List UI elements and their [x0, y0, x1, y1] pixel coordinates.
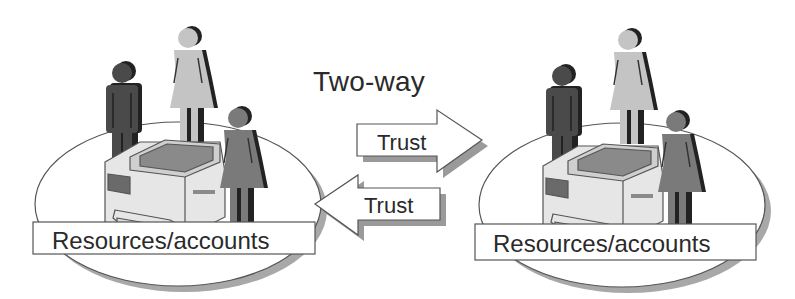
trust-arrow-right: Trust: [357, 110, 488, 178]
domain-left-label: Resources/accounts: [52, 227, 269, 254]
arrow-left-label: Trust: [364, 193, 413, 218]
domain-left: Resources/accounts: [33, 26, 327, 292]
trust-diagram: Resources/accounts Resources/accounts Tr…: [0, 0, 795, 299]
domain-right-label: Resources/accounts: [493, 230, 710, 257]
trust-arrow-left: Trust: [315, 175, 446, 241]
arrow-right-label: Trust: [377, 130, 426, 155]
domain-right: Resources/accounts: [475, 28, 771, 293]
